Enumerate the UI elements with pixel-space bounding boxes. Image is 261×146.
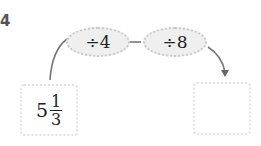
- denominator: 3: [51, 111, 61, 128]
- operation-divide-4: ÷4: [66, 27, 130, 57]
- start-connector: [50, 39, 67, 80]
- mixed-number: 5 1 3: [22, 86, 76, 134]
- start-value-box: 5 1 3: [20, 84, 78, 136]
- whole-part: 5: [36, 99, 48, 121]
- operation-divide-8: ÷8: [143, 27, 207, 57]
- operation-label: ÷4: [85, 32, 110, 52]
- fraction: 1 3: [50, 93, 62, 128]
- arrowhead-icon: [221, 70, 229, 77]
- numerator: 1: [51, 93, 61, 110]
- end-connector: [208, 47, 225, 72]
- answer-box[interactable]: [193, 82, 251, 135]
- operation-label: ÷8: [162, 32, 187, 52]
